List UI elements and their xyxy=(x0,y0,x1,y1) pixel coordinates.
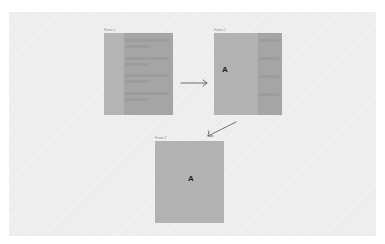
frame-2: A xyxy=(214,33,282,115)
list-item-subtitle-bar xyxy=(125,80,149,83)
list-item-title-bar xyxy=(125,74,169,77)
frame-2-label: Frame 2 xyxy=(214,29,225,32)
frame-1-list-panel xyxy=(124,33,173,115)
list-item-title-bar xyxy=(125,39,169,42)
list-item-subtitle-bar xyxy=(125,63,149,66)
list-item-bar xyxy=(259,39,279,42)
list-item-bar xyxy=(259,75,279,78)
frame-1-label: Frame 1 xyxy=(104,29,115,32)
list-item-bar xyxy=(259,57,279,60)
list-item-title-bar xyxy=(125,92,169,95)
list-item-subtitle-bar xyxy=(125,45,149,48)
list-item-bar xyxy=(259,93,279,96)
list-item-subtitle-bar xyxy=(125,98,149,101)
list-item-title-bar xyxy=(125,57,169,60)
frame-3-letter: A xyxy=(188,175,194,183)
frame-2-letter: A xyxy=(222,66,228,74)
frame-1-sidebar xyxy=(104,33,124,115)
frame-3: A xyxy=(155,141,224,223)
frame-2-list-panel xyxy=(258,33,282,115)
frame-1 xyxy=(104,33,173,115)
frame-3-label: Frame 3 xyxy=(155,137,166,140)
